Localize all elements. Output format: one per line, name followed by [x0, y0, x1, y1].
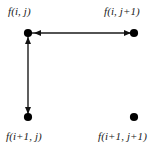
- node-label-top-left: f(i, j): [8, 6, 31, 17]
- node-top-left: [24, 29, 32, 37]
- graph-svg: [0, 0, 166, 149]
- diagram-canvas: f(i, j) f(i, j+1) f(i+1, j) f(i+1, j+1): [0, 0, 166, 149]
- edge-vertical: [25, 36, 31, 114]
- node-top-right: [130, 29, 138, 37]
- edge-horizontal: [31, 30, 131, 36]
- node-bottom-left: [24, 113, 32, 121]
- horizontal-edge-arrowhead-left: [34, 30, 41, 36]
- node-label-bottom-left: f(i+1, j): [6, 131, 42, 142]
- vertical-edge-arrowhead-up: [25, 37, 31, 44]
- node-label-bottom-right: f(i+1, j+1): [98, 131, 147, 142]
- node-bottom-right: [130, 113, 138, 121]
- node-label-top-right: f(i, j+1): [104, 6, 140, 17]
